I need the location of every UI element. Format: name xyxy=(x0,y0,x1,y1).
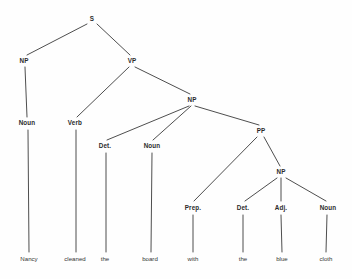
tree-edge xyxy=(107,106,189,140)
tree-edge xyxy=(28,130,29,252)
tree-edge xyxy=(153,106,191,140)
tree-node-adj: Adj. xyxy=(275,205,288,211)
tree-node-noun3: Noun xyxy=(320,205,337,211)
tree-word-blue: blue xyxy=(276,256,288,262)
tree-edge xyxy=(194,137,257,201)
tree-edge xyxy=(77,67,129,117)
tree-edge xyxy=(326,215,327,252)
tree-edge xyxy=(151,153,152,252)
tree-node-np1: NP xyxy=(19,58,28,64)
tree-node-verb: Verb xyxy=(68,120,82,126)
tree-word-nancy: Nancy xyxy=(20,256,37,262)
tree-edge xyxy=(264,137,280,166)
tree-edge xyxy=(97,24,130,55)
tree-node-prep: Prep. xyxy=(185,205,202,211)
tree-node-det1: Det. xyxy=(99,143,112,149)
tree-node-pp: PP xyxy=(257,128,266,134)
tree-edge xyxy=(195,106,259,125)
tree-node-noun2: Noun xyxy=(144,143,161,149)
tree-node-noun1: Noun xyxy=(19,120,36,126)
tree-edge xyxy=(286,178,326,201)
tree-node-det2: Det. xyxy=(237,205,250,211)
tree-edge xyxy=(27,24,87,55)
tree-edge-layer xyxy=(0,0,352,279)
tree-edge xyxy=(245,178,277,201)
tree-word-with: with xyxy=(188,256,199,262)
tree-word-cloth: cloth xyxy=(320,256,333,262)
tree-node-s: S xyxy=(90,16,94,22)
tree-node-np2: NP xyxy=(187,97,196,103)
tree-word-the1: the xyxy=(101,256,109,262)
tree-node-np3: NP xyxy=(276,169,285,175)
tree-edge xyxy=(281,215,282,252)
tree-word-board: board xyxy=(142,256,158,262)
tree-edge xyxy=(25,67,27,117)
syntax-tree-diagram: SNPVPNPPPNPNounVerbDet.NounPrep.Det.Adj.… xyxy=(0,0,352,279)
tree-word-cleaned: cleaned xyxy=(64,256,85,262)
tree-edge xyxy=(135,67,190,94)
tree-node-vp: VP xyxy=(128,58,137,64)
tree-word-the2: the xyxy=(239,256,247,262)
